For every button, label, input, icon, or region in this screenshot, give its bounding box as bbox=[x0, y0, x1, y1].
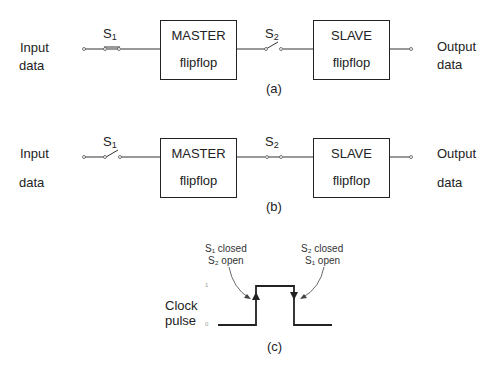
falling-note-line1: S₂ closed bbox=[301, 243, 343, 254]
caption-a: (a) bbox=[266, 82, 282, 96]
master-label: MASTER bbox=[161, 28, 236, 43]
rising-note-line1: S₁ closed bbox=[205, 243, 247, 254]
output-data-label-b: data bbox=[437, 176, 462, 190]
flipflop-label: flipflop bbox=[161, 55, 236, 70]
slave-label: SLAVE bbox=[314, 28, 389, 43]
clock-label: Clock bbox=[165, 299, 198, 313]
output-data-label-a: data bbox=[437, 58, 462, 72]
caption-b: (b) bbox=[266, 200, 282, 214]
wiring bbox=[0, 0, 498, 373]
input-label-b: Input bbox=[20, 147, 49, 161]
rising-note-line2: S₂ open bbox=[208, 255, 244, 266]
master-label: MASTER bbox=[161, 146, 236, 161]
falling-note-line2: S₁ open bbox=[305, 255, 340, 266]
master-flipflop-a: MASTER flipflop bbox=[160, 20, 237, 80]
caption-c: (c) bbox=[267, 340, 282, 354]
level-high-label: 1 bbox=[205, 282, 208, 288]
input-data-label-a: data bbox=[19, 59, 44, 73]
switch-s2-label-a: S2 bbox=[265, 27, 279, 44]
flipflop-label: flipflop bbox=[314, 55, 389, 70]
slave-flipflop-a: SLAVE flipflop bbox=[313, 20, 390, 80]
switch-s1-label-a: S1 bbox=[103, 27, 117, 44]
switch-s1-label-b: S1 bbox=[103, 135, 117, 152]
flipflop-label: flipflop bbox=[161, 173, 236, 188]
slave-label: SLAVE bbox=[314, 146, 389, 161]
master-flipflop-b: MASTER flipflop bbox=[160, 138, 237, 198]
flipflop-label: flipflop bbox=[314, 173, 389, 188]
slave-flipflop-b: SLAVE flipflop bbox=[313, 138, 390, 198]
input-data-label-b: data bbox=[19, 176, 44, 190]
switch-s2-label-b: S2 bbox=[265, 135, 279, 152]
input-label-a: Input bbox=[20, 41, 49, 55]
output-label-a: Output bbox=[437, 40, 476, 54]
level-low-label: 0 bbox=[205, 321, 208, 327]
pulse-label: pulse bbox=[165, 314, 196, 328]
output-label-b: Output bbox=[437, 147, 476, 161]
